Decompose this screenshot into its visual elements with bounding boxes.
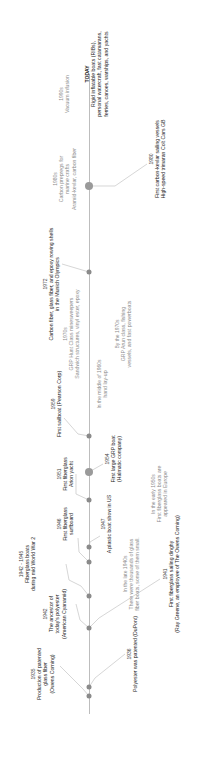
event-text: today's polyester <box>54 589 60 639</box>
event-text: ferries, canoes, warships, and yachts <box>103 31 109 116</box>
event-dot-1936 <box>87 685 92 690</box>
event-text: Arion yacht <box>68 457 74 491</box>
event-text: Sandwich structures, vinyl ester, epoxy <box>74 289 80 378</box>
event-text: in the Munich Olympics <box>54 228 60 341</box>
event-text: Polyester was patented (DuPont) <box>132 616 138 692</box>
event-1946: 1946 First fiberglass surfboard <box>56 507 75 541</box>
event-by-1970s: By the 1970s GRP Arun class, fishing ves… <box>114 301 133 368</box>
event-1941: 1941 First fiberglass sailing dinghy (Ra… <box>162 515 181 632</box>
event-dot-1972 <box>87 270 92 275</box>
event-text: vessels, and fast powerboats <box>126 301 132 368</box>
event-dot-1954 <box>85 468 93 476</box>
event-text: personal watercraft, fast catamarans, <box>96 31 102 116</box>
event-1990s: 1990s Vacuum infusion <box>58 75 70 113</box>
event-text: surfboard <box>68 507 74 541</box>
event-text: during mid World War 2 <box>30 537 36 591</box>
event-1935: 1935 Production of patented glass fiber … <box>30 648 55 700</box>
event-1954: 1954 First large GRP boat (Halmatic comp… <box>104 435 123 482</box>
event-early-1950s: In the early 1950s First fiberglass boat… <box>150 466 169 523</box>
event-text: (American Cyanamid) <box>61 589 67 639</box>
event-text: (Owens Corning) <box>49 648 55 700</box>
event-1936: 1936 Polyester was patented (DuPont) <box>126 616 138 692</box>
event-text: (Ray Greene, an employee of The Owens Co… <box>174 515 180 632</box>
timeline-diagram: 1935 Production of patented glass fiber … <box>0 0 198 774</box>
event-dot-1941-1942 <box>87 626 92 631</box>
event-today: TODAY Rigid inflatable boats (RIBs), per… <box>84 31 109 116</box>
event-dot-1942-1945 <box>87 594 92 599</box>
event-text: High-speed trimaran Colt Cars GB <box>160 120 166 199</box>
event-dot-1980 <box>85 182 93 190</box>
event-dot-1951 <box>87 498 92 503</box>
event-1970s-hunt: 1970s GRP Hunt Class minesweepers Sandwi… <box>62 289 81 378</box>
event-1947: 1947 A plastic boat show in US <box>100 495 112 554</box>
event-dot-1959 <box>87 434 92 439</box>
event-text: First sailboat (Pearson Corp) <box>56 371 62 437</box>
event-text: appeared in Europe <box>162 466 168 523</box>
event-dot-1946 <box>87 560 92 565</box>
event-mid-1960s: In the middle of 1960s hand lay-up <box>96 359 108 408</box>
event-1942: 1942 The ancestor of today's polyester (… <box>42 589 67 639</box>
event-1942-1945: 1942 - 1945 Fiberglass boats during mid … <box>18 537 37 591</box>
event-dot-1947 <box>87 545 92 550</box>
event-1959: 1959 First sailboat (Pearson Corp) <box>50 371 62 437</box>
event-text: hand lay-up <box>102 359 108 408</box>
event-text: (Halmatic company) <box>116 435 122 482</box>
event-1951: 1951 First fiberglass Arion yacht <box>56 457 75 491</box>
event-1972: 1972 Carbon fiber, glass fiber, and epox… <box>42 228 61 341</box>
event-dot-1935 <box>87 694 92 699</box>
event-1980: 1980 First carbon-kevlar sailing vessels… <box>148 120 167 199</box>
event-1980s: 1980s Carbon prepregs for marine crafts … <box>52 148 77 210</box>
event-text: A plastic boat show in US <box>106 495 112 554</box>
event-late-1940s: In the late 1940s There were thousands o… <box>122 537 141 611</box>
event-text: Vacuum infusion <box>64 75 70 113</box>
event-text: fiber boats, some of them small. <box>134 537 140 611</box>
event-text: Aramid-kevlar, carbon fiber <box>71 148 77 210</box>
